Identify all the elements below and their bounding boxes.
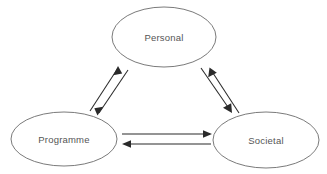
node-societal-label: Societal bbox=[248, 135, 283, 146]
arrow-down-left-icon bbox=[94, 107, 103, 116]
connector-societal-to-programme bbox=[122, 140, 211, 148]
arrow-down-right-icon bbox=[223, 103, 232, 113]
connector-personal-to-programme bbox=[94, 70, 128, 116]
node-societal[interactable]: Societal bbox=[213, 112, 319, 168]
arrow-down-left-shaft bbox=[99, 70, 128, 113]
diagram-canvas: Personal Programme Societal bbox=[0, 0, 327, 174]
arrow-right-icon bbox=[203, 130, 212, 138]
arrow-up-left-shaft bbox=[211, 70, 239, 113]
arrow-up-left-icon bbox=[208, 68, 217, 78]
arrow-up-right-icon bbox=[113, 66, 122, 75]
connector-personal-to-societal bbox=[201, 68, 232, 113]
connector-programme-to-personal bbox=[90, 66, 122, 111]
node-programme-label: Programme bbox=[38, 134, 89, 145]
connector-programme-to-societal bbox=[122, 130, 212, 138]
node-personal-label: Personal bbox=[144, 32, 183, 43]
diagram-svg: Personal Programme Societal bbox=[0, 0, 327, 174]
arrow-down-right-shaft bbox=[201, 68, 230, 110]
node-personal[interactable]: Personal bbox=[112, 7, 216, 67]
arrow-left-icon bbox=[122, 140, 131, 148]
connector-societal-to-personal bbox=[208, 68, 239, 114]
node-programme[interactable]: Programme bbox=[11, 112, 117, 166]
